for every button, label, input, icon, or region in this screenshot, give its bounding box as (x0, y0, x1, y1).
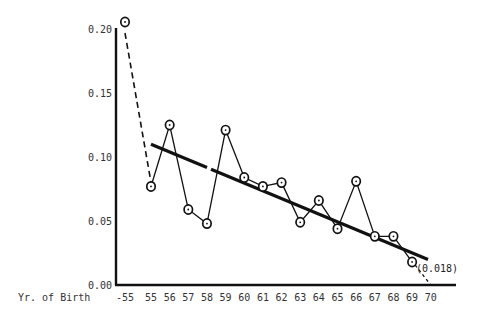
data-point-center (150, 186, 152, 188)
y-tick-label: 0.00 (88, 280, 112, 291)
y-tick-label: 0.10 (88, 152, 112, 163)
x-tick-label: 60 (238, 292, 250, 303)
x-tick-label: 62 (276, 292, 288, 303)
data-point-center (393, 235, 395, 237)
x-tick-label: 69 (406, 292, 418, 303)
x-tick-label: 57 (182, 292, 194, 303)
data-point-center (337, 228, 339, 230)
x-tick-label: 64 (313, 292, 325, 303)
x-tick-label: 63 (294, 292, 306, 303)
data-point-center (355, 180, 357, 182)
x-axis-ticks: -5555565758596061626364656667686970 (116, 292, 437, 303)
x-tick-label: 70 (425, 292, 437, 303)
x-tick-label: 58 (201, 292, 213, 303)
data-point-center (318, 200, 320, 202)
axes (115, 28, 456, 285)
x-tick-label: 56 (164, 292, 176, 303)
data-point-center (243, 177, 245, 179)
chart: 0.000.050.100.150.20 -555556575859606162… (0, 0, 482, 321)
x-tick-label: 67 (369, 292, 381, 303)
trend-segment (151, 144, 207, 167)
data-point-center (124, 21, 126, 23)
data-point-center (299, 221, 301, 223)
data-point-center (206, 223, 208, 225)
x-tick-label: 61 (257, 292, 269, 303)
trend-line (151, 144, 428, 259)
x-axis-title: Yr. of Birth (18, 292, 90, 303)
y-axis-ticks: 0.000.050.100.150.20 (88, 24, 112, 291)
value-annotation: (0.018) (416, 263, 458, 274)
x-tick-label: 66 (350, 292, 362, 303)
x-tick-label: -55 (116, 292, 134, 303)
x-tick-label: 65 (331, 292, 343, 303)
data-point-center (281, 182, 283, 184)
connectors (125, 33, 431, 285)
dashed-connector (125, 33, 151, 182)
data-point-center (411, 261, 413, 263)
data-point-center (262, 186, 264, 188)
x-tick-label: 55 (145, 292, 157, 303)
y-tick-label: 0.15 (88, 88, 112, 99)
y-tick-label: 0.05 (88, 216, 112, 227)
y-tick-label: 0.20 (88, 24, 112, 35)
x-tick-label: 68 (387, 292, 399, 303)
data-point-center (169, 124, 171, 126)
data-point-center (225, 129, 227, 131)
x-tick-label: 59 (220, 292, 232, 303)
data-point-center (374, 235, 376, 237)
data-point-center (187, 209, 189, 211)
